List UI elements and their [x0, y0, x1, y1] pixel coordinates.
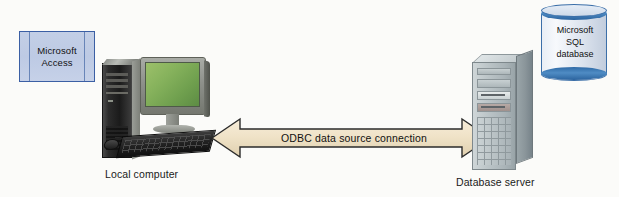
server-drive-slot	[481, 106, 505, 108]
cylinder-bottom-band	[541, 67, 607, 80]
microsoft-access-box: Microsoft Access	[19, 31, 95, 82]
server-front-face	[472, 62, 516, 170]
sql-database-cylinder: Microsoft SQL database	[538, 4, 612, 84]
local-computer-caption: Local computer	[105, 168, 178, 180]
tower-drive-bay	[106, 92, 128, 94]
sql-database-label-line1: Microsoft	[538, 24, 612, 36]
odbc-connection-arrow: ODBC data source connection	[210, 116, 492, 160]
cylinder-top-ellipse	[541, 4, 607, 17]
diagram-canvas: Microsoft Access	[0, 0, 619, 197]
tower-drive-bay	[106, 73, 128, 76]
server-side-face	[516, 50, 533, 164]
odbc-connection-arrow-label: ODBC data source connection	[210, 116, 492, 160]
server-vent-grill	[477, 117, 511, 165]
monitor-bezel	[140, 57, 206, 115]
server-drive-bay	[477, 68, 511, 75]
sql-database-label: Microsoft SQL database	[538, 24, 612, 60]
keyboard-keys	[121, 134, 210, 153]
monitor-icon	[140, 57, 212, 135]
server-drive-slot	[481, 94, 505, 96]
sql-database-label-line3: database	[538, 48, 612, 60]
access-box-label: Microsoft Access	[20, 45, 94, 69]
database-server-caption: Database server	[456, 176, 528, 197]
tower-drive-bay	[106, 85, 128, 88]
desktop-computer-icon	[96, 57, 214, 165]
tower-drive-bay	[106, 79, 128, 82]
server-tower-icon	[466, 52, 538, 174]
access-box-label-line2: Access	[20, 57, 94, 69]
server-drive-bay	[477, 79, 511, 88]
monitor-screen	[145, 62, 200, 107]
access-box-label-line1: Microsoft	[20, 45, 94, 57]
sql-database-label-line2: SQL	[538, 36, 612, 48]
tower-power-button-icon	[108, 100, 113, 102]
